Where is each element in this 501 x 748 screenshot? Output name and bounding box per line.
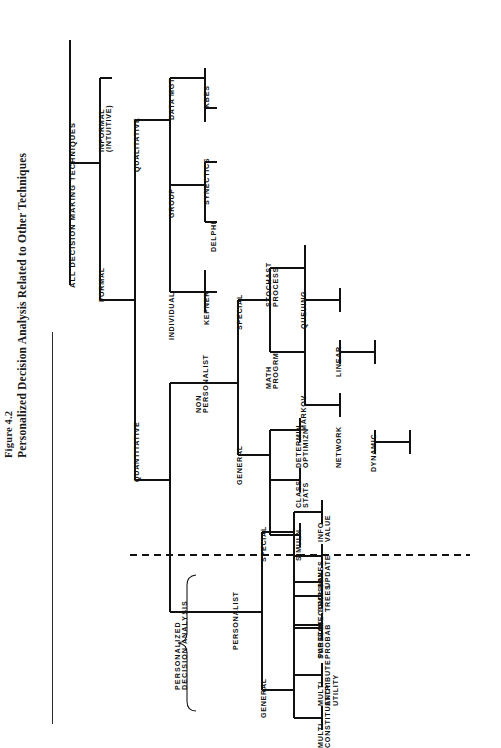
node-multi-constituency: MULTI CONSTITUENCY: [318, 683, 333, 748]
node-informal: INFORMAL (INTUITIVE): [99, 105, 114, 152]
node-decision-trees: DECISION TREES: [318, 572, 333, 612]
node-synectics: SYNECTICS: [204, 158, 211, 205]
node-stochast-process: STOCHAST PROCESS: [266, 262, 281, 307]
node-network: NETWORK: [336, 426, 343, 468]
node-dynamic: DYNAMIC: [371, 434, 378, 472]
group-annotation: PERSONALIZED DECISION ANALYSIS: [175, 600, 190, 690]
node-p-special: SPECIAL: [261, 526, 268, 562]
node-kbes: KBES: [204, 85, 211, 108]
node-info-value: INFO VALUE: [318, 515, 333, 542]
node-non-personalist: NON PERSONALIST: [196, 354, 211, 413]
node-linear: LINEAR: [336, 346, 343, 377]
node-np-special: SPECIAL: [237, 294, 244, 330]
decision-tree-diagram: ALL DECISION MAKING TECHNIQUES FORMAL IN…: [0, 0, 501, 748]
node-individual: INDIVIDUAL: [169, 292, 176, 340]
node-group: GROUP: [169, 188, 176, 218]
node-math-progrm: MATH PROGRM: [266, 353, 281, 389]
node-quantitative: QUANTITATIVE: [134, 422, 141, 482]
node-np-general: GENERAL: [237, 445, 244, 485]
node-formal: FORMAL: [99, 267, 106, 302]
node-kepner: KEPNER: [204, 291, 211, 325]
node-delphi: DELPHI: [211, 221, 218, 252]
node-subject-probab: SUBJECT PROBAB: [318, 621, 333, 659]
node-qualitative: QUALITATIVE: [134, 118, 141, 173]
node-data-mgt: DATA MGT: [169, 78, 176, 120]
node-class-stats: CLASS STATS: [296, 480, 311, 508]
node-determin-optimizn: DETERMIN OPTIMIZN: [296, 425, 311, 468]
tree-connectors: [0, 0, 501, 748]
figure-page: Figure 4.2 Personalized Decision Analysi…: [0, 0, 501, 748]
node-root: ALL DECISION MAKING TECHNIQUES: [69, 122, 77, 288]
node-queuing: QUEUING: [301, 291, 308, 329]
node-simuln: SIMULN: [296, 529, 303, 561]
node-personalist: PERSONALIST: [233, 591, 240, 650]
node-p-general: GENERAL: [261, 678, 268, 718]
